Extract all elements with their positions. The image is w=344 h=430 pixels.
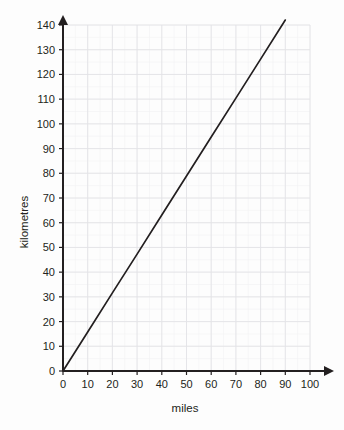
y-tick-label: 10 bbox=[43, 340, 55, 352]
y-tick-label: 30 bbox=[43, 291, 55, 303]
y-tick-label: 120 bbox=[37, 68, 55, 80]
y-tick-label: 50 bbox=[43, 241, 55, 253]
y-tick-label: 130 bbox=[37, 44, 55, 56]
x-tick-label: 30 bbox=[131, 378, 143, 390]
x-tick-label: 10 bbox=[82, 378, 94, 390]
x-tick-label: 100 bbox=[301, 378, 319, 390]
x-tick-label: 60 bbox=[205, 378, 217, 390]
x-tick-label: 70 bbox=[230, 378, 242, 390]
y-tick-label: 80 bbox=[43, 167, 55, 179]
y-tick-label: 90 bbox=[43, 143, 55, 155]
x-tick-label: 40 bbox=[156, 378, 168, 390]
y-tick-label: 110 bbox=[37, 93, 55, 105]
y-tick-label: 140 bbox=[37, 19, 55, 31]
y-tick-label: 100 bbox=[37, 118, 55, 130]
y-tick-label: 60 bbox=[43, 217, 55, 229]
y-tick-label: 0 bbox=[49, 365, 55, 377]
x-tick-label: 50 bbox=[180, 378, 192, 390]
x-tick-label: 0 bbox=[60, 378, 66, 390]
y-axis-title: kilometres bbox=[18, 196, 30, 249]
x-tick-label: 80 bbox=[254, 378, 266, 390]
x-tick-label: 20 bbox=[106, 378, 118, 390]
x-tick-label: 90 bbox=[279, 378, 291, 390]
y-tick-label: 70 bbox=[43, 192, 55, 204]
chart-canvas: 0102030405060708090100 01020304050607080… bbox=[0, 0, 344, 430]
conversion-graph: 0102030405060708090100 01020304050607080… bbox=[0, 0, 344, 430]
y-tick-label: 20 bbox=[43, 316, 55, 328]
x-axis-title: miles bbox=[172, 402, 199, 414]
y-tick-label: 40 bbox=[43, 266, 55, 278]
